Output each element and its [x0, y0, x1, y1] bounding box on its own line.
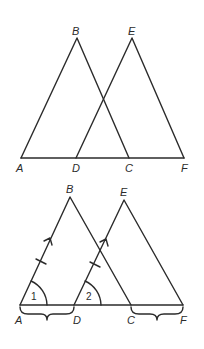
label-a: A [14, 314, 22, 326]
tick-mark-de [90, 262, 100, 267]
bottom-figure: 1 2 B E A D C F [14, 183, 188, 326]
label-f: F [181, 162, 189, 174]
label-b: B [66, 183, 73, 195]
label-c: C [127, 314, 135, 326]
triangle-abc [21, 38, 129, 158]
label-e: E [120, 186, 128, 198]
triangle-def [74, 200, 183, 305]
triangle-def [76, 38, 184, 158]
label-b: B [72, 25, 79, 37]
label-f: F [180, 314, 188, 326]
brace-cf [131, 307, 183, 320]
label-e: E [128, 25, 136, 37]
angle-1-label: 1 [31, 291, 37, 302]
brace-ad [20, 307, 74, 320]
label-d: D [73, 314, 81, 326]
geometry-diagram: B E A D C F 1 2 B E A D C F [0, 0, 204, 349]
triangle-abc [20, 197, 131, 305]
angle-2-label: 2 [86, 291, 92, 302]
label-c: C [125, 162, 133, 174]
label-a: A [15, 162, 23, 174]
label-d: D [72, 162, 80, 174]
top-figure: B E A D C F [15, 25, 189, 174]
